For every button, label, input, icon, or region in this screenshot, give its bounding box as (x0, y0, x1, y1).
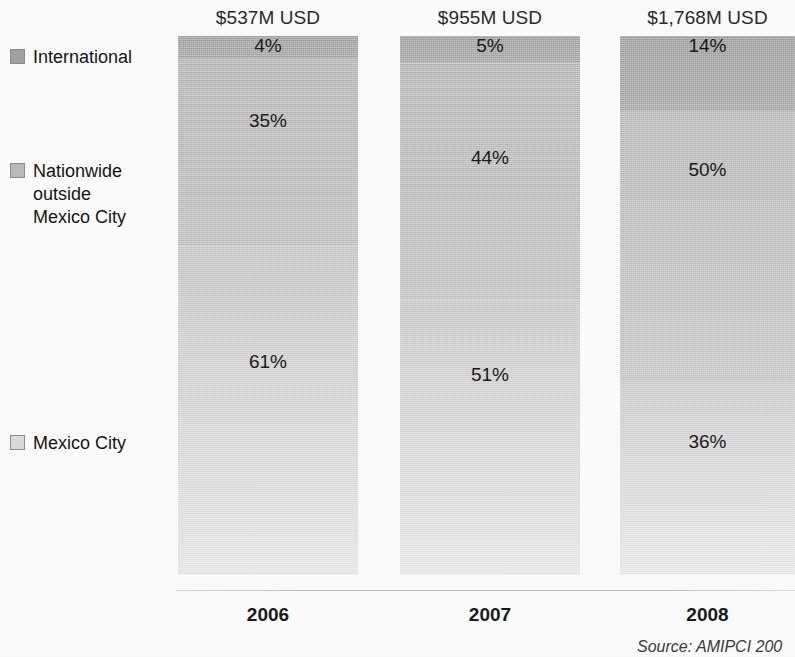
source-note: Source: AMIPCI 200 (637, 638, 782, 656)
legend-item-mexico-city[interactable]: Mexico City (10, 432, 126, 455)
legend-item-nationwide-outside-mexico-city[interactable]: Nationwide outside Mexico City (10, 160, 126, 229)
column-header-2007: $955M USD (400, 5, 580, 31)
stacked-bar-chart: $537M USD $955M USD $1,768M USD Internat… (0, 0, 795, 657)
bar-column-2006[interactable]: 4% 35% 61% (178, 36, 358, 575)
legend-item-international[interactable]: International (10, 46, 132, 69)
bar-segment-nationwide-2006[interactable]: 35% (178, 58, 358, 247)
bar-column-2008[interactable]: 14% 50% 36% (620, 36, 795, 575)
legend-label-nationwide: Nationwide outside Mexico City (33, 160, 126, 229)
legend-swatch-mexico-city (10, 435, 25, 450)
bar-segment-nationwide-2007[interactable]: 44% (400, 63, 580, 300)
bar-segment-mexico-city-2008[interactable]: 36% (620, 381, 795, 575)
axis-label-2006: 2006 (178, 604, 358, 626)
bar-segment-label: 35% (249, 110, 287, 132)
legend-label-international: International (33, 46, 132, 69)
axis-line (176, 590, 795, 591)
bar-segment-label: 5% (476, 36, 503, 57)
column-header-2008: $1,768M USD (620, 5, 795, 31)
legend-swatch-nationwide (10, 163, 25, 178)
bar-segment-mexico-city-2006[interactable]: 61% (178, 246, 358, 575)
bar-segment-nationwide-2008[interactable]: 50% (620, 111, 795, 381)
segment-texture (178, 58, 358, 247)
axis-label-2008: 2008 (620, 604, 795, 626)
bar-segment-label: 61% (249, 351, 287, 373)
segment-texture (400, 63, 580, 300)
column-header-2006: $537M USD (178, 5, 358, 31)
axis-label-2007: 2007 (400, 604, 580, 626)
bar-segment-label: 4% (254, 36, 281, 57)
segment-texture (178, 246, 358, 575)
segment-texture (620, 381, 795, 575)
bar-segment-international-2007[interactable]: 5% (400, 36, 580, 63)
bar-segment-label: 44% (471, 147, 509, 169)
bar-segment-mexico-city-2007[interactable]: 51% (400, 300, 580, 575)
bar-segment-label: 51% (471, 364, 509, 386)
bar-segment-label: 36% (688, 431, 726, 453)
segment-texture (400, 300, 580, 575)
bar-column-2007[interactable]: 5% 44% 51% (400, 36, 580, 575)
bar-segment-international-2008[interactable]: 14% (620, 36, 795, 111)
bar-segment-label: 50% (688, 159, 726, 181)
bar-segment-label: 14% (688, 36, 726, 57)
legend-swatch-international (10, 49, 25, 64)
segment-texture (620, 111, 795, 381)
legend-label-mexico-city: Mexico City (33, 432, 126, 455)
bar-segment-international-2006[interactable]: 4% (178, 36, 358, 58)
